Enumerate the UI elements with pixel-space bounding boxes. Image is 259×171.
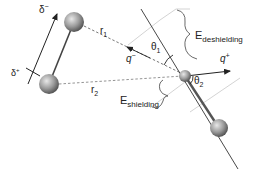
atom-bottom-left xyxy=(39,74,59,94)
label-q-plus: q+ xyxy=(220,52,230,64)
dipole-bond xyxy=(49,22,74,84)
shielding-diagram: δ− δ+ r1 r2 q− q+ θ1 θ2 Edeshielding Esh… xyxy=(0,0,259,171)
label-delta-minus: δ− xyxy=(39,3,49,15)
label-e-shielding: Eshielding xyxy=(120,94,159,109)
dipole-crossbar xyxy=(26,68,40,76)
atom-center xyxy=(179,70,191,82)
label-e-deshielding: Edeshielding xyxy=(195,29,243,44)
label-delta-plus: δ+ xyxy=(11,67,20,78)
q-plus-arrow xyxy=(186,71,230,76)
label-theta1: θ1 xyxy=(151,41,161,54)
label-theta2: θ2 xyxy=(194,75,204,88)
label-q-minus: q− xyxy=(126,52,136,64)
label-r1: r1 xyxy=(100,25,107,38)
atom-top xyxy=(64,12,84,32)
label-r2: r2 xyxy=(91,84,98,97)
atom-bottom-right xyxy=(210,119,228,137)
deshielding-brace xyxy=(177,10,197,59)
r2-dashed-line xyxy=(59,76,183,84)
